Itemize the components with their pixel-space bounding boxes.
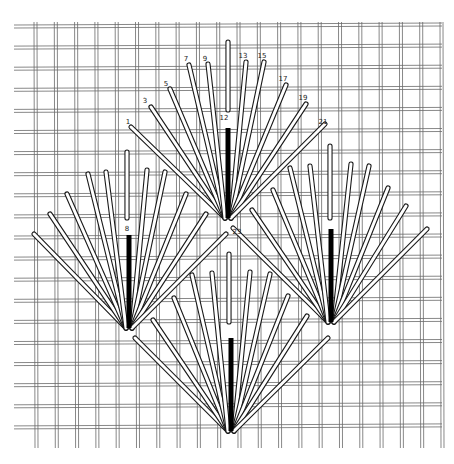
fan-stitches (34, 42, 427, 431)
stitch-number-label: 9 (203, 55, 207, 63)
mesh-thread-vertical (98, 22, 99, 448)
fan-stitch-diagram: 13579121315171921823 (0, 0, 454, 464)
mesh-thread-vertical (95, 22, 96, 448)
stitch-number-label: 21 (319, 118, 328, 126)
stitch-number-label: 1 (126, 118, 130, 126)
mesh-thread-vertical (118, 22, 119, 448)
stitch-number-label: 7 (184, 55, 188, 63)
mesh-thread-vertical (136, 22, 137, 448)
mesh-thread-vertical (399, 22, 400, 448)
stitch-number-label: 15 (258, 52, 267, 60)
mesh-thread-vertical (402, 22, 403, 448)
stitch-number-label: 17 (279, 75, 288, 83)
mesh-thread-horizontal (14, 26, 442, 28)
mesh-thread-vertical (339, 22, 340, 448)
mesh-thread-horizontal (14, 23, 442, 25)
stitch-number-label: 8 (125, 225, 129, 233)
mesh-thread-vertical (78, 22, 79, 448)
stitch-fill (135, 338, 228, 431)
stitch-number-label: 19 (299, 94, 308, 102)
mesh-thread-vertical (54, 22, 55, 448)
stitch-number-label: 12 (220, 114, 229, 122)
stitch-number-label: 5 (164, 80, 168, 88)
mesh-thread-vertical (440, 22, 441, 448)
mesh-thread-vertical (359, 22, 360, 448)
stitch-number-label: 3 (143, 97, 147, 105)
mesh-thread-vertical (382, 22, 383, 448)
mesh-thread-vertical (57, 22, 58, 448)
mesh-thread-vertical (321, 22, 322, 448)
stitch-number-label: 23 (233, 228, 242, 236)
mesh-thread-vertical (379, 22, 380, 448)
mesh-thread-vertical (443, 22, 444, 448)
mesh-thread-vertical (362, 22, 363, 448)
stitch-number-label: 13 (239, 52, 248, 60)
mesh-thread-vertical (75, 22, 76, 448)
